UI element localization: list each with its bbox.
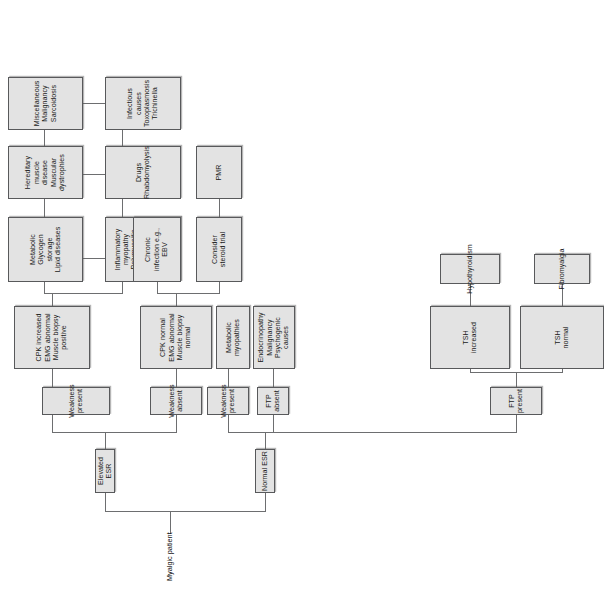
connector bbox=[265, 433, 266, 449]
connector bbox=[228, 415, 229, 433]
node-fibromyalgia[interactable]: Fibromyalgia bbox=[534, 254, 590, 284]
node-cpk-normal[interactable]: CPK normal EMG abnormal Muscle biopsy no… bbox=[140, 306, 212, 369]
connector bbox=[516, 373, 517, 387]
connector bbox=[83, 258, 105, 259]
connector bbox=[122, 282, 123, 294]
node-hypothyroidism[interactable]: Hypothyroidism bbox=[440, 254, 500, 284]
node-consider-steroid-trial[interactable]: Consider steroid trial bbox=[196, 217, 242, 282]
connector bbox=[170, 512, 171, 534]
root-label: Myalgic patient bbox=[166, 532, 175, 581]
node-weakness-present-2[interactable]: Weakness present bbox=[207, 387, 249, 415]
connector bbox=[122, 199, 123, 217]
connector bbox=[219, 282, 220, 294]
connector bbox=[83, 174, 105, 175]
connector bbox=[44, 130, 45, 146]
node-miscellaneous-malignancy[interactable]: Miscellaneous Malignancy Sarcoidosis bbox=[8, 77, 83, 130]
node-elevated-esr[interactable]: Elevated ESR bbox=[95, 449, 115, 493]
node-ftp-absent[interactable]: FTP absent bbox=[257, 387, 289, 415]
connector bbox=[122, 130, 123, 146]
node-chronic-infection-box[interactable]: Chronic infection e.g., EBV bbox=[133, 217, 181, 282]
node-drugs-rhabdomyolysis[interactable]: Drugs Rhabdomyolysis bbox=[105, 146, 181, 199]
node-cpk-increased[interactable]: CPK increased EMG abnormal Muscle biopsy… bbox=[14, 306, 90, 369]
node-normal-esr[interactable]: Normal ESR bbox=[255, 449, 275, 493]
node-tsh-normal[interactable]: TSH normal bbox=[520, 306, 604, 369]
node-metabolic-myopathies[interactable]: Metabolic myopathies bbox=[216, 306, 250, 369]
connector bbox=[273, 369, 274, 387]
connector bbox=[176, 294, 177, 306]
connector bbox=[273, 415, 274, 433]
node-hereditary-muscle-disease[interactable]: Hereditary muscle disease Muscular dystr… bbox=[8, 146, 83, 199]
connector bbox=[52, 415, 53, 433]
connector bbox=[265, 493, 266, 512]
connector bbox=[219, 199, 220, 217]
connector bbox=[83, 103, 105, 104]
connector bbox=[228, 432, 516, 433]
connector bbox=[52, 294, 53, 306]
connector bbox=[105, 433, 106, 449]
node-weakness-absent[interactable]: Weakness absent bbox=[150, 387, 202, 415]
connector bbox=[105, 493, 106, 512]
node-weakness-present-1[interactable]: Weakness present bbox=[42, 387, 110, 415]
node-ftp-present[interactable]: FTP present bbox=[490, 387, 542, 415]
connector bbox=[44, 282, 45, 294]
connector bbox=[157, 293, 219, 294]
node-endocrinopathy[interactable]: Endocrinopathy Malignancy Psychogenic ca… bbox=[253, 306, 295, 369]
connector bbox=[157, 282, 158, 294]
connector bbox=[44, 199, 45, 217]
connector bbox=[105, 511, 265, 512]
connector bbox=[470, 372, 562, 373]
connector bbox=[52, 369, 53, 387]
connector bbox=[516, 415, 517, 433]
node-pmr[interactable]: PMR bbox=[196, 146, 242, 199]
connector bbox=[52, 432, 176, 433]
connector bbox=[176, 415, 177, 433]
connector bbox=[44, 293, 122, 294]
node-metabolic-glycogen[interactable]: Metabolic Glycogen storage Lipid disease… bbox=[8, 217, 83, 282]
node-infectious-causes[interactable]: Infectious causes Toxoplasmosis Trichine… bbox=[105, 77, 181, 130]
node-tsh-increased[interactable]: TSH increased bbox=[430, 306, 510, 369]
